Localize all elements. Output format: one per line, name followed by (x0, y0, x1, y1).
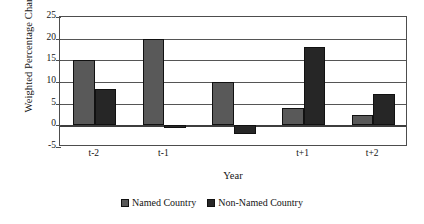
plot-area (59, 16, 407, 146)
bar (373, 94, 395, 126)
legend-swatch-icon (121, 199, 129, 207)
bar (352, 115, 374, 126)
y-tick-label: -5 (34, 141, 56, 151)
bar (73, 60, 95, 125)
legend-entry: Non-Named Country (207, 198, 303, 208)
bar (143, 39, 165, 126)
legend-label: Named Country (132, 198, 196, 208)
y-axis-title: Weighted Percentage Change (23, 0, 34, 130)
bar-chart-figure: Weighted Percentage Change 2520151050-5 … (0, 0, 424, 224)
bar (234, 125, 256, 134)
x-tick-label: t-2 (64, 148, 124, 159)
bar (164, 125, 186, 128)
legend-label: Non-Named Country (218, 198, 303, 208)
y-axis-tick-labels: 2520151050-5 (34, 16, 56, 146)
y-tick-label: 5 (34, 98, 56, 108)
bar (282, 108, 304, 125)
bar (95, 89, 117, 126)
bar-series-group (60, 17, 406, 145)
x-axis-tick-labels: t-2t-1t+1t+2 (59, 148, 407, 162)
x-tick-label: t+1 (273, 148, 333, 159)
legend-entry: Named Country (121, 198, 196, 208)
chart-legend: Named CountryNon-Named Country (0, 198, 424, 208)
x-tick-label: t+2 (342, 148, 402, 159)
y-tick-label: 10 (34, 76, 56, 86)
y-tick-label: 0 (34, 120, 56, 130)
x-axis-title: Year (59, 170, 407, 181)
y-tick-label: 15 (34, 55, 56, 65)
bar (212, 82, 234, 125)
y-tick-label: 20 (34, 33, 56, 43)
legend-swatch-icon (207, 199, 215, 207)
y-tick-label: 25 (34, 11, 56, 21)
bar (304, 47, 326, 125)
x-tick-label: t-1 (133, 148, 193, 159)
